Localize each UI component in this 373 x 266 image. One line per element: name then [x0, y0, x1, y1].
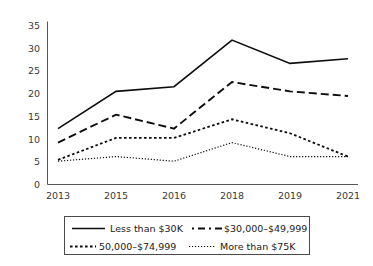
series-line-30-000-49-999: [58, 82, 348, 143]
y-tick-label: 20: [28, 88, 40, 99]
line-chart: 35 30 25 20 15 10 5 0 2013 2015 2016 201…: [0, 0, 373, 266]
x-tick-label: 2013: [46, 190, 70, 201]
y-tick-label: 10: [28, 134, 40, 145]
series-line-more-than-75k: [58, 143, 348, 162]
legend-item-label: More than $75K: [220, 241, 296, 252]
legend-item-label: $30,000–$49,999: [224, 223, 307, 234]
y-tick-label: 0: [34, 179, 40, 190]
chart-legend: Less than $30K $30,000–$49,999 50,000–$7…: [65, 217, 310, 255]
y-tick-label: 15: [28, 111, 40, 122]
x-tick-label: 2016: [162, 190, 186, 201]
x-tick-label: 2021: [336, 190, 360, 201]
chart-canvas: 35 30 25 20 15 10 5 0 2013 2015 2016 201…: [0, 0, 373, 266]
y-tick-label: 5: [34, 156, 40, 167]
legend-item-label: Less than $30K: [110, 223, 184, 234]
y-axis-tick-labels: 35 30 25 20 15 10 5 0: [28, 20, 40, 190]
series-layer: [58, 40, 348, 161]
legend-item-label: 50,000–$74,999: [99, 241, 176, 252]
y-tick-label: 35: [28, 20, 40, 31]
x-tick-label: 2015: [104, 190, 128, 201]
series-line-50-000-74-999: [58, 119, 348, 160]
x-tick-label: 2019: [278, 190, 302, 201]
series-line-less-than-30k: [58, 40, 348, 128]
y-tick-label: 25: [28, 65, 40, 76]
x-axis-tick-labels: 2013 2015 2016 2018 2019 2021: [46, 190, 360, 201]
x-tick-label: 2018: [220, 190, 244, 201]
y-tick-label: 30: [28, 43, 40, 54]
